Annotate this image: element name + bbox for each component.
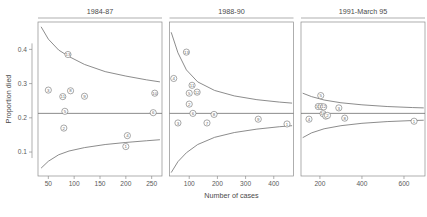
data-point-label: 11 <box>190 83 195 88</box>
funnel-plot-figure: 0.10.20.30.4Proportion died1984-87501001… <box>0 0 427 217</box>
x-tick-label: 100 <box>184 180 195 187</box>
x-tick-label: 150 <box>94 180 105 187</box>
data-point: 4 <box>306 116 312 122</box>
data-point: 9 <box>81 93 87 99</box>
data-point: 12 <box>321 104 327 110</box>
panel-frame <box>38 22 162 176</box>
data-point: 1 <box>411 118 417 124</box>
data-point: 8 <box>211 111 217 117</box>
data-point: 8 <box>67 88 73 94</box>
x-tick-label: 200 <box>314 180 325 187</box>
data-point-label: 11 <box>61 94 66 99</box>
lower-funnel-curve <box>41 140 160 168</box>
data-point: 3 <box>336 105 342 111</box>
data-point: 6 <box>150 110 156 116</box>
y-axis-title: Proportion died <box>4 75 13 124</box>
x-tick-label: 50 <box>45 180 53 187</box>
data-point: 2 <box>61 125 67 131</box>
upper-funnel-curve <box>41 27 160 82</box>
data-point: 5 <box>186 90 192 96</box>
x-tick-label: 400 <box>356 180 367 187</box>
data-point-label: 12 <box>321 104 326 109</box>
data-point: 6 <box>190 110 196 116</box>
data-point-label: 13 <box>66 52 71 57</box>
chart-panel: 1991-March 95200400600513111231072841 <box>301 7 425 187</box>
data-point: 4 <box>171 75 177 81</box>
y-tick-label: 0.1 <box>18 148 27 155</box>
data-point: 13 <box>183 49 189 55</box>
data-point: 8 <box>342 115 348 121</box>
x-tick-label: 600 <box>398 180 409 187</box>
y-tick-label: 0.2 <box>18 114 27 121</box>
x-tick-label: 200 <box>212 180 223 187</box>
data-point-label: 13 <box>184 50 189 55</box>
data-point: 2 <box>186 101 192 107</box>
chart-canvas: 0.10.20.30.4Proportion died1984-87501001… <box>0 0 427 217</box>
data-point: 5 <box>62 108 68 114</box>
panel-title: 1988-90 <box>218 7 244 16</box>
data-point-label: 10 <box>152 91 157 96</box>
data-point: 11 <box>60 94 66 100</box>
data-point: 5 <box>318 92 324 98</box>
data-point: 3 <box>175 120 181 126</box>
data-point: 12 <box>194 89 200 95</box>
x-tick-label: 100 <box>69 180 80 187</box>
x-tick-label: 300 <box>240 180 251 187</box>
panel-frame <box>170 22 294 176</box>
x-axis-title: Number of cases <box>204 191 259 200</box>
data-point: 10 <box>152 90 158 96</box>
chart-panel: 1988-90100200300400134115122689371 <box>170 7 294 187</box>
y-tick-label: 0.4 <box>18 46 27 53</box>
data-point: 11 <box>189 82 195 88</box>
data-point-label: 12 <box>195 90 200 95</box>
data-point: 7 <box>204 120 210 126</box>
panel-title: 1984-87 <box>87 7 113 16</box>
x-tick-label: 200 <box>120 180 131 187</box>
data-point: 1 <box>284 121 290 127</box>
lower-funnel-curve <box>171 126 292 173</box>
x-tick-label: 250 <box>146 180 157 187</box>
lower-funnel-curve <box>303 120 424 137</box>
data-point: 4 <box>124 133 130 139</box>
chart-panel: 1984-875010015020025013381195610241 <box>38 7 162 187</box>
data-point: 9 <box>255 116 261 122</box>
y-tick-label: 0.3 <box>18 80 27 87</box>
data-point: 2 <box>324 112 330 118</box>
data-point: 13 <box>65 51 71 57</box>
panel-title: 1991-March 95 <box>339 7 387 16</box>
data-point: 3 <box>45 87 51 93</box>
data-point: 1 <box>123 143 129 149</box>
x-tick-label: 400 <box>268 180 279 187</box>
